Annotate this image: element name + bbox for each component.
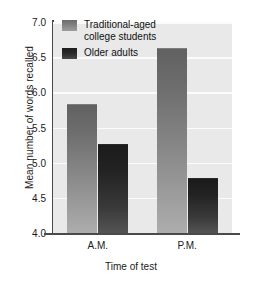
bar-pm-series-1 xyxy=(157,48,187,233)
bar-am-series-1 xyxy=(67,104,97,233)
bar-chart-figure: Mean number of words recalled 4.04.55.05… xyxy=(0,0,262,282)
x-axis-line xyxy=(44,233,240,235)
x-axis-tick-label: A.M. xyxy=(87,240,108,251)
y-axis-tick-label: 4.0 xyxy=(18,228,46,239)
y-axis-tick-label: 7.0 xyxy=(18,17,46,28)
y-axis-tick-label: 6.5 xyxy=(18,52,46,63)
y-axis-tick-label: 6.0 xyxy=(18,87,46,98)
y-axis-tick-label: 5.5 xyxy=(18,122,46,133)
y-axis-tick-label: 4.5 xyxy=(18,192,46,203)
x-axis-tick-label: P.M. xyxy=(178,240,197,251)
legend-label: Traditional-aged college students xyxy=(84,19,156,42)
legend-entry: Older adults xyxy=(62,47,156,59)
legend-swatch-icon xyxy=(62,20,77,31)
chart-legend: Traditional-aged college studentsOlder a… xyxy=(62,19,156,64)
legend-swatch-icon xyxy=(62,48,77,59)
y-axis-tick-labels: 4.04.55.05.56.06.57.0 xyxy=(18,22,46,233)
legend-entry: Traditional-aged college students xyxy=(62,19,156,42)
gridline xyxy=(53,92,232,94)
bar-am-series-2 xyxy=(98,144,128,233)
x-axis-title: Time of test xyxy=(0,261,262,272)
legend-label: Older adults xyxy=(84,47,138,59)
bar-pm-series-2 xyxy=(188,178,218,233)
y-axis-tick-label: 5.0 xyxy=(18,157,46,168)
